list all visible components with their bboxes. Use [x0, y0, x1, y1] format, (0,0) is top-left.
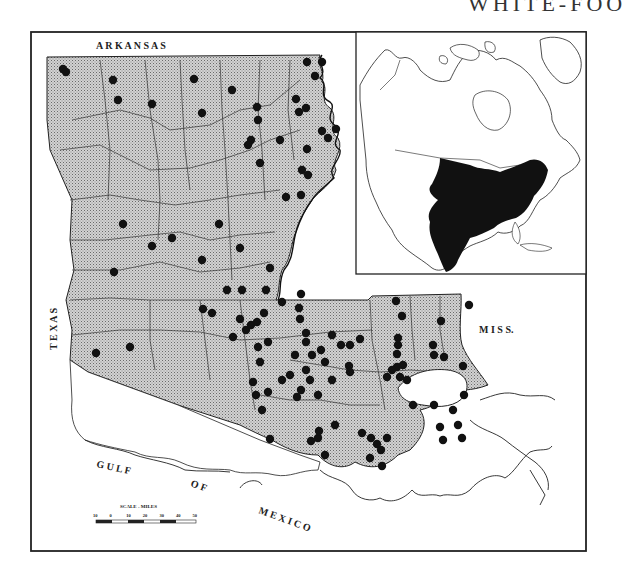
record-dot	[236, 315, 244, 323]
record-dot	[168, 234, 176, 242]
record-dot	[286, 371, 294, 379]
record-dot	[282, 193, 290, 201]
record-dot	[126, 343, 134, 351]
record-dot	[238, 286, 246, 294]
record-dot	[278, 298, 286, 306]
record-dot	[454, 421, 462, 429]
record-dot	[190, 75, 198, 83]
record-dot	[449, 406, 457, 414]
record-dot	[295, 108, 303, 116]
record-dot	[383, 373, 391, 381]
record-dot	[388, 366, 396, 374]
record-dot	[328, 376, 336, 384]
record-dot	[458, 434, 466, 442]
record-dot	[297, 386, 305, 394]
record-dot	[430, 351, 438, 359]
record-dot	[253, 103, 261, 111]
record-dot	[296, 315, 304, 323]
record-dot	[302, 329, 310, 337]
record-dot	[430, 401, 438, 409]
record-dot	[460, 391, 468, 399]
record-dot	[295, 304, 303, 312]
record-dot	[291, 351, 299, 359]
label-miss: M I S S.	[479, 324, 514, 335]
scale-title: SCALE - MILES	[120, 504, 157, 509]
record-dot	[256, 159, 264, 167]
record-dot	[306, 376, 314, 384]
record-dot	[356, 335, 364, 343]
scale-tick-label: 10	[93, 513, 98, 518]
record-dot	[198, 256, 206, 264]
record-dot	[198, 109, 206, 117]
scale-tick-label: 50	[193, 513, 198, 518]
record-dot	[249, 378, 257, 386]
record-dot	[318, 127, 326, 135]
record-dot	[321, 358, 329, 366]
record-dot	[393, 350, 401, 358]
record-dot	[439, 436, 447, 444]
scale-tick-label: 20	[143, 513, 148, 518]
record-dot	[324, 134, 332, 142]
record-dot	[465, 301, 473, 309]
record-dot	[266, 264, 274, 272]
record-dot	[276, 136, 284, 144]
record-dot	[148, 100, 156, 108]
record-dot	[260, 309, 268, 317]
record-dot	[110, 268, 118, 276]
record-dot	[229, 333, 237, 341]
record-dot	[377, 446, 385, 454]
record-dot	[303, 58, 311, 66]
record-dot	[459, 362, 467, 370]
record-dot	[199, 305, 207, 313]
record-dot	[208, 309, 216, 317]
scale-tick-label: 30	[159, 513, 164, 518]
label-arkansas: A R K A N S A S	[96, 40, 166, 51]
record-dot	[62, 68, 70, 76]
record-dot	[302, 366, 310, 374]
inset-north-america	[356, 32, 586, 274]
record-dot	[114, 96, 122, 104]
record-dot	[311, 72, 319, 80]
record-dot	[119, 220, 127, 228]
record-dot	[317, 346, 325, 354]
record-dot	[394, 334, 402, 342]
record-dot	[264, 338, 272, 346]
record-dot	[378, 462, 386, 470]
record-dot	[358, 429, 366, 437]
record-dot	[367, 434, 375, 442]
record-dot	[148, 242, 156, 250]
record-dot	[244, 141, 252, 149]
record-dot	[262, 286, 270, 294]
record-dot	[256, 358, 264, 366]
record-dot	[215, 220, 223, 228]
record-dot	[297, 290, 305, 298]
record-dot	[228, 86, 236, 94]
record-dot	[308, 351, 316, 359]
record-dot	[337, 341, 345, 349]
scale-tick-label: 40	[176, 513, 181, 518]
record-dot	[253, 318, 261, 326]
record-dot	[278, 376, 286, 384]
record-dot	[346, 368, 354, 376]
record-dot	[292, 95, 300, 103]
record-dot	[252, 391, 260, 399]
record-dot	[223, 286, 231, 294]
record-dot	[315, 427, 323, 435]
record-dot	[440, 353, 448, 361]
record-dot	[409, 401, 417, 409]
record-dot	[302, 338, 310, 346]
record-dot	[383, 434, 391, 442]
record-dot	[254, 116, 262, 124]
record-dot	[314, 391, 322, 399]
record-dot	[92, 349, 100, 357]
record-dot	[328, 331, 336, 339]
record-dot	[436, 423, 444, 431]
record-dot	[304, 171, 312, 179]
record-dot	[236, 244, 244, 252]
record-dot	[437, 317, 445, 325]
record-dot	[303, 145, 311, 153]
record-dot	[366, 454, 374, 462]
record-dot	[331, 421, 339, 429]
record-dot	[297, 191, 305, 199]
